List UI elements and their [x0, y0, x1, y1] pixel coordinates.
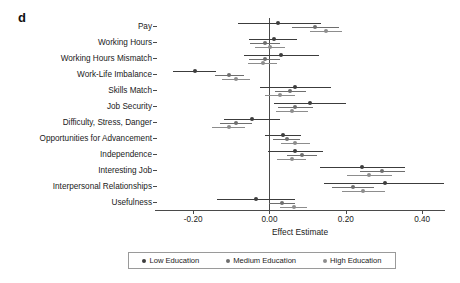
data-point: [290, 157, 294, 161]
data-point: [234, 121, 238, 125]
data-point: [292, 205, 296, 209]
y-axis-tick: [153, 106, 157, 107]
legend-marker-icon: [226, 259, 230, 263]
data-point: [281, 133, 285, 137]
y-axis-tick: [153, 58, 157, 59]
data-point: [300, 153, 304, 157]
plot-area: [155, 18, 445, 210]
y-axis-tick: [153, 122, 157, 123]
x-axis-tick: [193, 210, 194, 214]
x-axis-tick: [269, 210, 270, 214]
legend-item: High Education: [323, 256, 382, 265]
data-point: [380, 169, 384, 173]
y-axis-tick: [153, 154, 157, 155]
y-axis-tick: [153, 170, 157, 171]
x-axis-tick-label: -0.20: [184, 215, 203, 224]
x-axis-tick: [422, 210, 423, 214]
y-axis-label: Usefulness: [0, 198, 152, 207]
data-point: [272, 37, 276, 41]
data-point: [293, 141, 297, 145]
data-point: [288, 89, 292, 93]
x-axis-line: [155, 210, 445, 211]
data-point: [261, 61, 265, 65]
y-axis-label: Working Hours: [0, 38, 152, 47]
data-point: [308, 101, 312, 105]
y-axis-label: Interpersonal Relationships: [0, 182, 152, 191]
data-point: [276, 21, 280, 25]
data-point: [285, 137, 289, 141]
data-point: [290, 109, 294, 113]
data-point: [361, 189, 365, 193]
y-axis-label: Work-Life Imbalance: [0, 70, 152, 79]
x-axis-title: Effect Estimate: [155, 227, 445, 237]
y-axis-label: Difficulty, Stress, Danger: [0, 118, 152, 127]
x-axis-tick-label: 0.00: [262, 215, 278, 224]
data-point: [250, 117, 254, 121]
data-point: [360, 165, 364, 169]
y-axis-label: Skills Match: [0, 86, 152, 95]
data-point: [227, 73, 231, 77]
y-axis-tick: [153, 186, 157, 187]
y-axis-tick: [153, 42, 157, 43]
y-axis-label: Independence: [0, 150, 152, 159]
y-axis-label: Working Hours Mismatch: [0, 54, 152, 63]
y-axis-tick: [153, 202, 157, 203]
legend-item: Medium Education: [226, 256, 296, 265]
y-axis-tick: [153, 26, 157, 27]
data-point: [293, 105, 297, 109]
legend-marker-icon: [323, 259, 327, 263]
data-point: [313, 25, 317, 29]
data-point: [268, 45, 272, 49]
data-point: [383, 181, 387, 185]
legend-label: Low Education: [149, 256, 199, 265]
y-axis-label: Interesting Job: [0, 166, 152, 175]
data-point: [263, 41, 267, 45]
legend-label: High Education: [330, 256, 382, 265]
y-axis-tick: [153, 90, 157, 91]
x-axis-tick: [346, 210, 347, 214]
data-point: [293, 149, 297, 153]
data-point: [351, 185, 355, 189]
data-point: [254, 197, 258, 201]
y-axis-label: Opportunities for Advancement: [0, 134, 152, 143]
y-axis-label: Job Security: [0, 102, 152, 111]
y-axis-tick: [153, 74, 157, 75]
legend-marker-icon: [142, 259, 146, 263]
figure-panel-d: d PayWorking HoursWorking Hours Mismatch…: [0, 0, 460, 283]
x-axis-tick-label: 0.20: [338, 215, 354, 224]
legend: Low EducationMedium EducationHigh Educat…: [128, 252, 396, 269]
data-point: [227, 125, 231, 129]
y-axis-label: Pay: [0, 22, 152, 31]
data-point: [279, 53, 283, 57]
data-point: [193, 69, 197, 73]
data-point: [324, 29, 328, 33]
x-axis-tick-label: 0.40: [414, 215, 430, 224]
legend-label: Medium Education: [233, 256, 296, 265]
data-point: [278, 93, 282, 97]
y-axis-tick: [153, 138, 157, 139]
data-point: [293, 85, 297, 89]
data-point: [367, 173, 371, 177]
data-point: [280, 201, 284, 205]
data-point: [234, 77, 238, 81]
legend-item: Low Education: [142, 256, 199, 265]
